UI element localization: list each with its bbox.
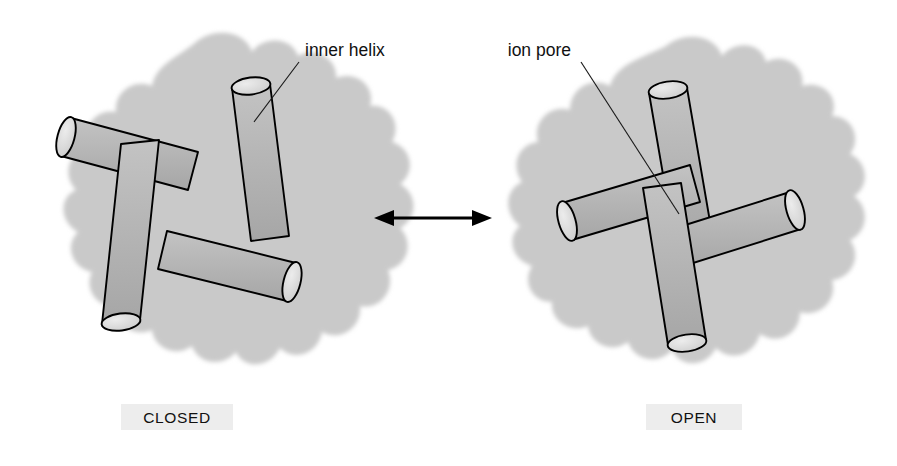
state-label-open: OPEN (671, 409, 717, 426)
inner-helix-label: inner helix (305, 40, 385, 60)
ion-pore-label: ion pore (508, 40, 571, 60)
ion-channel-diagram: CLOSED inner helix (0, 0, 897, 466)
figure-canvas: CLOSED inner helix (0, 0, 897, 466)
state-label-closed: CLOSED (143, 409, 210, 426)
